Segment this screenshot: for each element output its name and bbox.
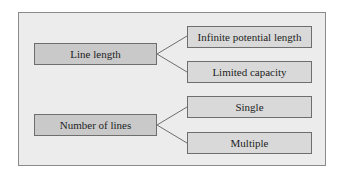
node-label: Infinite potential length: [198, 31, 302, 43]
node-number-of-lines: Number of lines: [34, 114, 157, 136]
node-label: Limited capacity: [212, 66, 286, 78]
node-label: Single: [235, 101, 263, 113]
node-infinite-potential-length: Infinite potential length: [187, 26, 312, 48]
node-label: Multiple: [231, 137, 269, 149]
node-label: Line length: [70, 48, 120, 60]
node-label: Number of lines: [60, 119, 131, 131]
node-line-length: Line length: [34, 43, 157, 65]
node-single: Single: [187, 96, 312, 118]
node-multiple: Multiple: [187, 132, 312, 154]
node-limited-capacity: Limited capacity: [187, 61, 312, 83]
